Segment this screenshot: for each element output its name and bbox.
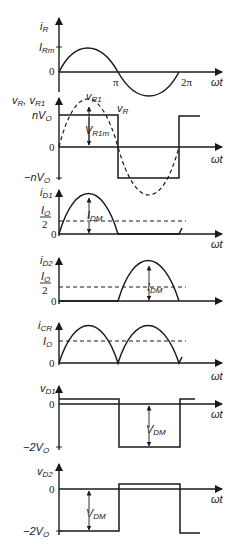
annotation-VDM: VDM — [146, 423, 166, 437]
svg-text:2: 2 — [42, 218, 48, 230]
tick-label-zero: 0 — [49, 483, 55, 495]
tick-label-Io: IO — [43, 335, 52, 349]
tick-label-nVo: nVO — [32, 109, 52, 123]
x-axis-label: ωt — [211, 76, 224, 88]
panel-iCR: iCR IO 0 ωt — [38, 319, 224, 382]
x-axis-label: ωt — [211, 408, 224, 420]
tick-label-Io-over-2: IO — [41, 204, 50, 218]
rectified-sine-iCR — [59, 326, 182, 364]
tick-label-zero: 0 — [49, 398, 55, 410]
tick-label-zero: 0 — [49, 357, 55, 369]
axis-label-vD2: vD2 — [37, 465, 53, 479]
square-wave-vD1 — [59, 399, 195, 447]
tick-label-zero: 0 — [51, 228, 57, 240]
axis-label-vD1: vD1 — [40, 382, 56, 396]
tick-label-IRm: IRm — [39, 41, 55, 55]
annotation-vR1: vR1 — [86, 90, 102, 104]
svg-text:2: 2 — [42, 284, 48, 296]
annotation-VR1m: VR1m — [85, 124, 110, 138]
annotation-vR: vR — [117, 102, 129, 116]
tick-label-neg-nVo: −nVO — [24, 171, 50, 185]
x-axis-label: ωt — [211, 493, 224, 505]
axis-label-vR-vR1: vR, vR1 — [12, 94, 45, 108]
panel-iD1: iD1 IO 2 0 IDM ωt — [40, 186, 224, 250]
axis-label-iD2: iD2 — [40, 254, 53, 268]
x-axis-label: ωt — [211, 153, 224, 165]
panel-vR: vR, vR1 nVO 0 −nVO vR1 vR VR1m ωt — [12, 90, 224, 195]
panel-vD2: vD2 0 −2VO VDM ωt — [23, 464, 224, 539]
annotation-IDM: IDM — [87, 209, 103, 223]
half-sine-iD1 — [59, 194, 182, 235]
x-axis-label: ωt — [211, 370, 224, 382]
tick-label-pi: π — [113, 76, 119, 88]
panel-iD2: iD2 IO 2 0 IDM — [40, 254, 222, 307]
axis-label-iD1: iD1 — [40, 186, 53, 200]
tick-label-zero: 0 — [49, 141, 55, 153]
tick-label-2pi: 2π — [181, 76, 193, 88]
tick-label-Io-over-2: IO — [41, 270, 50, 284]
tick-label-zero: 0 — [49, 65, 55, 77]
waveform-diagram: iR IRm 0 π 2π ωt vR, vR1 nVO 0 −nVO vR1 … — [0, 0, 237, 549]
tick-label-zero: 0 — [51, 295, 57, 307]
axis-label-iR: iR — [40, 20, 48, 34]
annotation-IDM: IDM — [147, 281, 163, 295]
panel-vD1: vD1 0 −2VO VDM ωt — [23, 382, 224, 455]
annotation-VDM: VDM — [86, 507, 106, 521]
square-wave-vD2 — [59, 484, 200, 533]
axis-label-iCR: iCR — [38, 319, 52, 333]
tick-label-neg-2Vo: −2VO — [23, 525, 49, 539]
panel-iR: iR IRm 0 π 2π ωt — [39, 18, 224, 96]
x-axis-label: ωt — [211, 238, 224, 250]
tick-label-neg-2Vo: −2VO — [23, 441, 49, 455]
